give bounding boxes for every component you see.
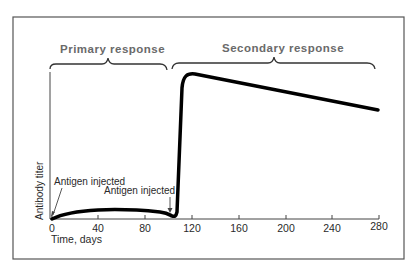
x-tick-200: 200 <box>277 222 295 234</box>
y-axis-label: Antibody titer <box>34 161 45 220</box>
x-axis-label: Time, days <box>51 233 102 245</box>
x-tick-120: 120 <box>183 222 201 234</box>
antibody-response-chart: Primary response Secondary response Anti… <box>0 0 418 272</box>
x-tick-240: 240 <box>323 222 341 234</box>
x-tick-80: 80 <box>139 222 151 234</box>
x-tick-160: 160 <box>230 222 248 234</box>
x-tick-280: 280 <box>370 220 388 232</box>
primary-response-label: Primary response <box>60 43 165 55</box>
secondary-response-label: Secondary response <box>222 42 344 54</box>
antigen-injected-label-2: Antigen injected <box>104 185 175 196</box>
